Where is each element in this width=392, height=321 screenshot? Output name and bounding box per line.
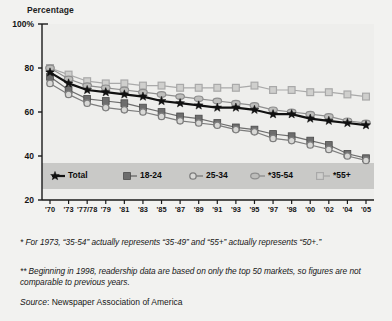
x-tick-label: '05 [361, 205, 371, 214]
x-tick-label: '02 [324, 205, 334, 214]
footnote-two: ** Beginning in 1998, readership data ar… [20, 266, 372, 288]
x-tick-label: '79 [101, 205, 111, 214]
y-tick-label: 100% [2, 19, 34, 29]
x-tick-label: '81 [119, 205, 129, 214]
x-tick-label: '04 [342, 205, 352, 214]
footnote-one: * For 1973, “35-54” actually represents … [20, 237, 372, 248]
x-tick-label: '00 [305, 205, 315, 214]
legend-item-total[interactable]: Total [68, 170, 88, 180]
source-note: Source: Newspaper Association of America [20, 297, 183, 307]
x-tick-label: '87 [175, 205, 185, 214]
legend-item-18-24[interactable]: 18-24 [140, 170, 162, 180]
x-tick-label: '70 [45, 205, 55, 214]
legend-item--35-54[interactable]: *35-54 [268, 170, 293, 180]
y-tick-label: 80 [2, 63, 34, 73]
x-tick-label: '73 [64, 205, 74, 214]
y-tick-label: 40 [2, 151, 34, 161]
x-tick-label: '91 [212, 205, 222, 214]
x-tick-label: '89 [194, 205, 204, 214]
legend-item--55-[interactable]: *55+ [333, 170, 351, 180]
x-tick-label: '83 [138, 205, 148, 214]
source-value: : Newspaper Association of America [47, 297, 183, 307]
x-tick-label: '98 [287, 205, 297, 214]
x-tick-label: '95 [249, 205, 259, 214]
x-tick-label: '77/78 [77, 205, 97, 214]
y-tick-label: 20 [2, 195, 34, 205]
x-tick-label: '93 [231, 205, 241, 214]
x-tick-label: '85 [157, 205, 167, 214]
y-tick-label: 60 [2, 107, 34, 117]
x-tick-label: '97 [268, 205, 278, 214]
source-label: Source [20, 297, 47, 307]
chart-figure: Percentage Average Weekday Readership, b… [0, 0, 392, 321]
legend-item-25-34[interactable]: 25-34 [206, 170, 228, 180]
